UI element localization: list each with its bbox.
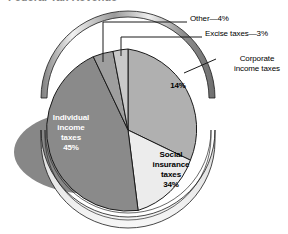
callout-corporate-income-taxes: Corporate income taxes: [228, 54, 286, 74]
slice-label-individual-income-taxes: Individualincometaxes45%: [40, 113, 102, 153]
callout-excise-taxes: Excise taxes—3%: [205, 29, 268, 39]
pie-chart-figure: Federal Tax Revenue: [0, 0, 288, 234]
callout-other: Other—4%: [190, 14, 229, 24]
slice-label-social-insurance-taxes: Socialinsurancetaxes34%: [140, 150, 202, 190]
slice-label-corporate-percent: 14%: [164, 81, 192, 91]
